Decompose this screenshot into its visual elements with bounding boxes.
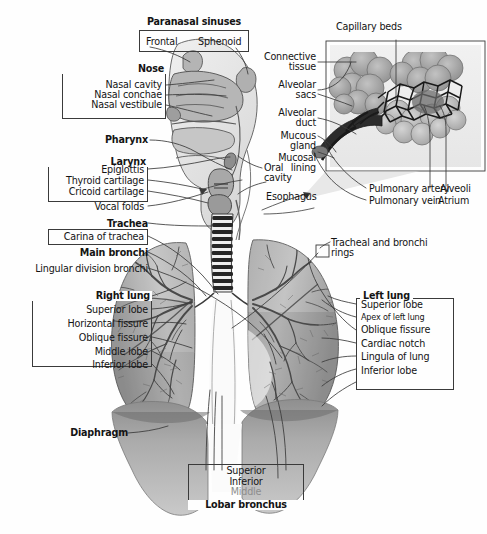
label-oblique-fissure-right: Oblique fissure <box>36 333 148 343</box>
label-tracheal-rings-line2: rings <box>331 248 427 258</box>
label-connective-tissue: Connective tissue <box>248 52 316 71</box>
label-trachea: Trachea <box>48 219 148 229</box>
label-main-bronchi: Main bronchi <box>44 248 148 258</box>
label-thyroid-cartilage: Thyroid cartilage <box>40 176 144 186</box>
label-inferior-lobe-right: Inferior lobe <box>40 360 148 370</box>
label-lingular-division-bronchi: Lingular division bronchi <box>16 264 148 274</box>
label-lobar-superior: Superior <box>188 466 304 476</box>
label-alveolar-duct: Alveolar duct <box>248 108 316 127</box>
label-apex-of-left-lung: Apex of left lung <box>361 313 425 322</box>
label-mucosal-lining: Mucosal lining <box>248 153 316 172</box>
label-lingula-of-lung: Lingula of lung <box>361 352 429 362</box>
label-oblique-fissure-left: Oblique fissure <box>361 325 430 335</box>
label-pharynx: Pharynx <box>60 135 148 145</box>
label-paranasal-sinuses: Paranasal sinuses <box>139 17 249 27</box>
label-diaphragm: Diaphragm <box>40 428 128 438</box>
label-middle-lobe: Middle lobe <box>40 347 148 357</box>
label-pulmonary-artery: Pulmonary artery <box>369 184 449 194</box>
label-esophagus: Esophagus <box>266 192 317 202</box>
label-cardiac-notch: Cardiac notch <box>361 339 425 349</box>
respiratory-system-figure: Paranasal sinuses Frontal Sphenoid Nose … <box>0 0 487 534</box>
label-alveoli: Alveoli <box>440 184 471 194</box>
label-epiglottis: Epiglottis <box>48 165 144 175</box>
label-frontal: Frontal <box>146 37 178 47</box>
label-vocal-folds: Vocal folds <box>56 202 144 212</box>
label-atrium: Atrium <box>438 196 469 206</box>
label-sphenoid: Sphenoid <box>198 37 241 47</box>
label-capillary-beds: Capillary beds <box>336 22 402 32</box>
label-pulmonary-vein: Pulmonary vein <box>369 196 441 206</box>
label-alveolar-sacs-line2: sacs <box>248 90 316 100</box>
label-inferior-lobe-left: Inferior lobe <box>361 366 417 376</box>
label-horizontal-fissure: Horizontal fissure <box>28 319 148 329</box>
label-lobar-bronchus: Lobar bronchus <box>188 500 304 510</box>
label-connective-tissue-line2: tissue <box>248 62 316 72</box>
label-superior-lobe-right: Superior lobe <box>36 305 148 315</box>
label-superior-lobe-left: Superior lobe <box>361 300 423 310</box>
label-alveolar-sacs: Alveolar sacs <box>248 80 316 99</box>
label-nasal-vestibule: Nasal vestibule <box>62 100 162 110</box>
label-tracheal-bronchi-rings: Tracheal and bronchi rings <box>331 238 427 257</box>
label-right-lung: Right lung <box>32 291 152 301</box>
label-mucous-gland-line2: gland <box>248 141 316 151</box>
label-cricoid-cartilage: Cricoid cartilage <box>40 187 144 197</box>
label-nose: Nose <box>62 64 166 74</box>
label-mucous-gland: Mucous gland <box>248 131 316 150</box>
label-lobar-middle: Middle <box>188 487 304 497</box>
label-alveolar-duct-line2: duct <box>248 118 316 128</box>
label-carina-of-trachea: Carina of trachea <box>48 232 144 242</box>
label-mucosal-lining-line2: lining <box>248 163 316 173</box>
label-oral-cavity-line2: cavity <box>264 173 292 183</box>
